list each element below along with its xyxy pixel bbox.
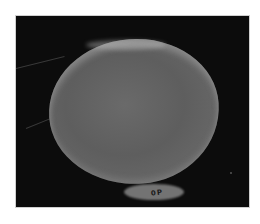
dust-particle (230, 172, 232, 174)
image-frame: 0P (15, 15, 250, 208)
specimen (44, 33, 224, 190)
light-streak (16, 56, 65, 69)
edge-label: 0P (151, 188, 164, 198)
specimen-rim-highlight (86, 40, 166, 50)
